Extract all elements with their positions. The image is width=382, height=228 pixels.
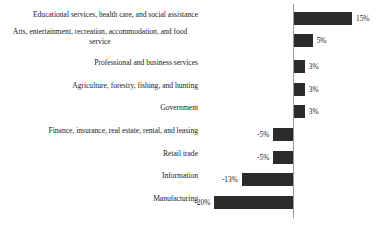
bar-negative [273,151,293,164]
bar-positive [293,34,313,47]
category-label: Educational services, health care, and s… [2,10,198,20]
data-label: 3% [309,83,319,96]
bar-positive [293,83,305,96]
data-label: 3% [309,105,319,118]
category-label: Arts, entertainment, recreation, accommo… [2,27,198,46]
data-label: 3% [309,60,319,73]
horizontal-bar-chart: Educational services, health care, and s… [0,0,382,228]
data-label: -20% [0,196,210,209]
bar-row: Government 3% [0,101,382,123]
zero-axis-line [293,4,294,218]
bar-positive [293,12,352,25]
bar-row: Manufacturing -20% [0,192,382,214]
bar-negative [242,173,293,186]
plot-area: Educational services, health care, and s… [0,0,382,228]
bar-row: Retail trade -5% [0,147,382,169]
bar-row: Agriculture, forestry, fishing, and hunt… [0,79,382,101]
category-label: Government [2,103,198,113]
bar-negative [214,196,293,209]
bar-row: Finance, insurance, real estate, rental,… [0,124,382,146]
bar-row: Professional and business services 3% [0,56,382,78]
data-label: -13% [0,173,238,186]
bar-positive [293,105,305,118]
data-label: 5% [317,34,327,47]
bar-positive [293,60,305,73]
data-label: -5% [0,128,269,141]
bar-negative [273,128,293,141]
category-label: Agriculture, forestry, fishing, and hunt… [2,81,198,91]
category-label: Professional and business services [2,58,198,68]
data-label: 15% [356,12,370,25]
data-label: -5% [0,151,269,164]
bar-row: Information -13% [0,169,382,191]
bar-row: Arts, entertainment, recreation, accommo… [0,30,382,52]
